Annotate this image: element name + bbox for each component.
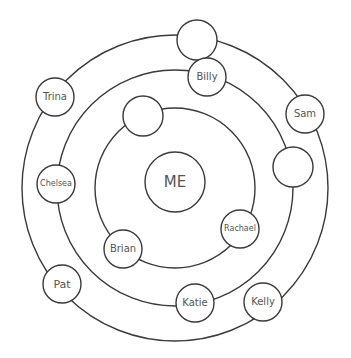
node-label-rachael: Rachael	[224, 225, 256, 233]
node-label-chelsea: Chelsea	[40, 180, 72, 188]
node-label-pat: Pat	[53, 279, 70, 290]
node-blank-middle-right	[273, 147, 313, 187]
node-label-me: ME	[164, 175, 186, 190]
node-label-katie: Katie	[182, 298, 207, 308]
node-blank-outer-top	[177, 20, 217, 60]
node-label-trina: Trina	[43, 92, 67, 102]
node-label-kelly: Kelly	[251, 297, 275, 307]
node-blank-inner-top	[123, 96, 163, 136]
node-label-sam: Sam	[294, 109, 316, 119]
node-label-brian: Brian	[110, 244, 136, 254]
social-circles-diagram: MEBillyTrinaSamChelseaRachaelBrianPatKat…	[0, 0, 351, 358]
node-label-billy: Billy	[196, 72, 217, 82]
